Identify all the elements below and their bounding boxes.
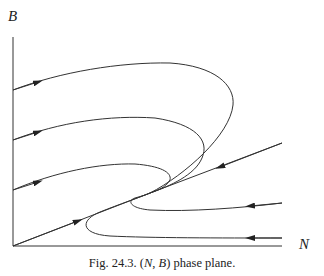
caption-prefix: Fig. 24.3. (	[89, 256, 144, 270]
phase-plane-diagram	[0, 0, 324, 276]
arrow-icon	[13, 221, 78, 246]
arrow-icon	[13, 182, 38, 190]
trajectory-lower	[13, 164, 170, 193]
trajectory-middle	[13, 117, 204, 193]
arrow-icon	[13, 132, 38, 140]
trajectory-right-lower	[86, 193, 282, 238]
arrow-icon	[250, 203, 282, 206]
trajectory-right-upper	[131, 193, 282, 211]
arrow-icon	[220, 143, 282, 167]
y-axis-label: B	[8, 8, 17, 25]
x-axis-label: N	[299, 236, 309, 253]
caption-suffix: ) phase plane.	[166, 256, 235, 270]
arrow-icon	[13, 82, 38, 90]
figure-caption: Fig. 24.3. (N, B) phase plane.	[0, 256, 324, 271]
phase-plane-figure: B N Fig. 24.3. (N, B) phase plane.	[0, 0, 324, 276]
